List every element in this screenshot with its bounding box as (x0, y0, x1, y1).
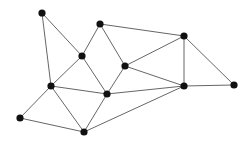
node-B (96, 20, 103, 27)
node-E (121, 62, 128, 69)
edge-D-I (184, 36, 234, 85)
edge-F-K (51, 86, 84, 132)
node-D (180, 32, 187, 39)
edge-B-E (100, 24, 125, 66)
edge-C-F (51, 56, 82, 86)
graph-canvas (0, 0, 249, 146)
edges-layer (20, 13, 234, 132)
node-I (230, 81, 237, 88)
node-J (16, 114, 23, 121)
node-A (38, 9, 45, 16)
node-K (80, 128, 87, 135)
node-H (180, 82, 187, 89)
edge-C-G (82, 56, 107, 94)
node-G (103, 90, 110, 97)
edge-B-C (82, 24, 100, 56)
edge-A-C (42, 13, 82, 56)
graph-diagram (0, 0, 249, 146)
edge-A-F (42, 13, 51, 86)
edge-G-H (107, 86, 184, 94)
edge-D-E (125, 36, 184, 66)
edge-E-G (107, 66, 125, 94)
edge-E-H (125, 66, 184, 86)
edge-F-J (20, 86, 51, 118)
node-F (47, 82, 54, 89)
edge-J-K (20, 118, 84, 132)
edge-H-I (184, 85, 234, 86)
node-C (78, 52, 85, 59)
edge-F-G (51, 86, 107, 94)
edge-B-D (100, 24, 184, 36)
